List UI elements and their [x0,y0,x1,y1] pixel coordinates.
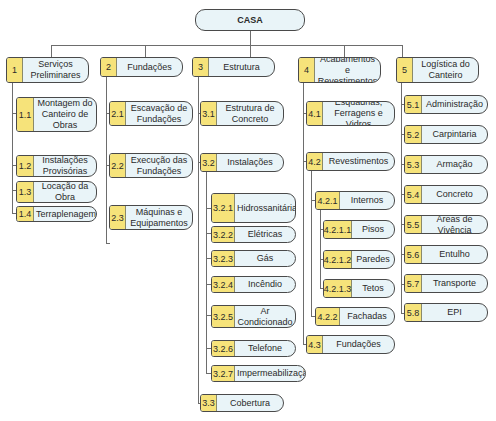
connector [344,45,345,57]
node-4-3: 4.3 Fundações [306,335,395,354]
node-number: 3.3 [201,395,217,411]
node-number: 5.5 [405,216,422,233]
node-label: Fundações [323,336,394,353]
node-label: Pisos [352,221,394,238]
node-label: Telefone [235,341,295,356]
node-label: Máquinas e Equipamentos [126,206,192,229]
connector [250,45,251,57]
node-number: 4.2 [307,153,323,170]
node-label: Instalações [217,154,283,171]
node-number: 1.1 [17,98,34,131]
node-3-3: 3.3 Cobertura [200,394,284,412]
node-3-2-3: 3.2.3 Gás [211,250,296,267]
connector [311,171,312,317]
node-number: 2.3 [110,206,126,229]
node-label: Terraplenagem [34,207,97,221]
node-3-2-5: 3.2.5 Ar Condicionado [211,305,296,328]
connector [401,82,402,313]
connector [106,243,110,244]
connector [51,45,403,46]
node-4-2-2: 4.2.2 Fachadas [315,307,395,326]
node-number: 1 [7,58,23,82]
node-4-2-1: 4.2.1 Internos [315,191,395,210]
node-label: Execução das Fundações [126,154,192,177]
node-5-4: 5.4 Concreto [404,185,488,204]
node-number: 3.2 [201,154,217,171]
connector [106,76,107,244]
node-4-acabamentos: 4 Acabamentos e Revestimentos [298,57,381,83]
node-number: 3.2.3 [212,251,235,266]
node-label: EPI [422,304,487,321]
node-number: 1.4 [17,207,34,221]
node-number: 3.2.6 [212,341,235,356]
connector [145,45,146,57]
node-1-4: 1.4 Terraplenagem [16,206,97,222]
node-label: Logística do Canteiro [413,58,478,82]
node-number: 3.2.4 [212,277,235,292]
connector [402,45,403,57]
node-2-fundacoes: 2 Fundações [100,57,183,77]
connector [12,82,13,214]
node-label: Fachadas [340,308,394,325]
connector [320,210,321,289]
node-3-2-4: 3.2.4 Incêndio [211,276,296,293]
node-3-1: 3.1 Estrutura de Concreto [200,101,284,126]
node-4-1: 4.1 Esquadrias, Ferragens e Vidros [306,101,395,126]
node-label: Locação da Obra [34,182,96,202]
node-label: Gás [235,251,295,266]
node-label: Hidrossanitárias [235,194,296,222]
node-5-logistica: 5 Logística do Canteiro [396,57,479,83]
node-number: 5.6 [405,246,422,263]
node-number: 3.2.1 [212,194,235,222]
node-3-2: 3.2 Instalações [200,153,284,172]
node-number: 3.2.2 [212,227,235,242]
node-label: Acabamentos e Revestimentos [315,58,380,82]
node-3-2-2: 3.2.2 Elétricas [211,226,296,243]
node-number: 4.1 [307,102,323,125]
node-label: Tetos [352,280,394,297]
node-number: 5.1 [405,96,422,113]
node-1-servicos-preliminares: 1 Serviços Preliminares [6,57,89,83]
node-2-3: 2.3 Máquinas e Equipamentos [109,205,193,230]
node-1-1: 1.1 Montagem do Canteiro de Obras [16,97,97,132]
node-number: 1.3 [17,182,34,202]
node-3-2-6: 3.2.6 Telefone [211,340,296,357]
node-label: Estrutura de Concreto [217,102,283,125]
node-label: Escavação de Fundações [126,102,192,125]
node-2-1: 2.1 Escavação de Fundações [109,101,193,126]
node-label: Armação [422,156,487,173]
node-5-3: 5.3 Armação [404,155,488,174]
node-number: 4 [299,58,315,82]
connector [250,31,251,46]
node-2-2: 2.2 Execução das Fundações [109,153,193,178]
node-label: Concreto [422,186,487,203]
node-number: 2.2 [110,154,126,177]
node-1-2: 1.2 Instalações Provisórias [16,155,97,177]
node-number: 3.2.5 [212,306,235,327]
connector [198,76,199,403]
node-number: 4.2.1 [316,192,340,209]
node-label: Revestimentos [323,153,394,170]
node-5-6: 5.6 Entulho [404,245,488,264]
node-5-5: 5.5 Áreas de Vivência [404,215,488,234]
node-label: Fundações [117,58,182,76]
node-label: Transporte [422,275,487,292]
node-number: 3.1 [201,102,217,125]
node-number: 4.2.1.2 [324,251,352,268]
node-number: 4.2.1.1 [324,221,352,238]
node-label: Entulho [422,246,487,263]
node-number: 5.4 [405,186,422,203]
node-number: 2 [101,58,117,76]
node-3-2-7: 3.2.7 Impermeabilização [211,365,306,382]
root-node-casa: CASA [195,9,305,31]
node-5-8: 5.8 EPI [404,303,488,322]
node-5-2: 5.2 Carpintaria [404,125,488,144]
node-3-2-1: 3.2.1 Hidrossanitárias [211,193,296,223]
node-label: Esquadrias, Ferragens e Vidros [323,102,394,125]
node-label: Elétricas [235,227,295,242]
node-number: 2.1 [110,102,126,125]
node-number: 3 [193,58,209,76]
connector [303,82,304,344]
node-label: Ar Condicionado [235,306,295,327]
node-4-2-1-1: 4.2.1.1 Pisos [323,220,395,239]
